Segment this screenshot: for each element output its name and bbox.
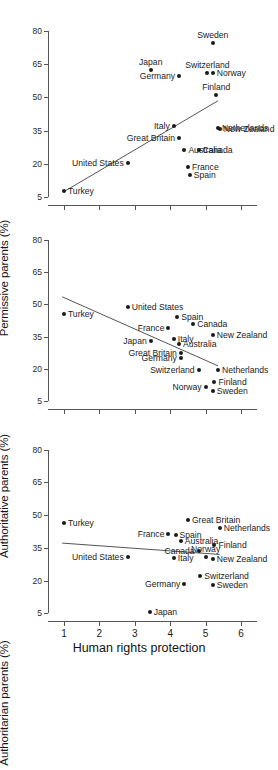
data-point: [216, 368, 220, 372]
data-point-label: Netherlands: [224, 523, 270, 532]
data-point-label: Finland: [202, 83, 230, 92]
data-point-label: New Zealand: [224, 125, 275, 134]
data-point-label: Canada: [203, 146, 233, 155]
data-point: [148, 610, 152, 614]
data-point-label: Turkey: [68, 187, 94, 196]
data-point: [211, 583, 215, 587]
data-point-label: Italy: [154, 121, 170, 130]
data-point-label: Finland: [218, 541, 246, 550]
data-point: [211, 389, 215, 393]
data-point-label: Australia: [183, 340, 216, 349]
data-point-label: Germany: [140, 72, 175, 81]
data-point: [186, 165, 190, 169]
data-point: [204, 555, 208, 559]
data-point-label: Canada: [197, 320, 227, 329]
data-point-label: Japan: [154, 608, 177, 617]
data-point-label: United States: [72, 158, 124, 167]
panel-authoritarian-parents: Authoritarian parents (%)520355065801234…: [0, 421, 278, 661]
data-point-label: Great Britain: [127, 134, 175, 143]
data-point: [211, 333, 215, 337]
data-point-label: Norway: [217, 69, 246, 78]
data-point-label: United States: [132, 302, 184, 311]
data-point: [126, 555, 130, 559]
data-point: [204, 385, 208, 389]
data-point-label: United States: [72, 553, 124, 562]
data-point-label: Sweden: [217, 580, 248, 589]
data-point-label: Switzerland: [150, 365, 194, 374]
data-point-label: Italy: [178, 554, 194, 563]
data-point-label: Turkey: [68, 310, 94, 319]
data-point: [179, 539, 183, 543]
data-point: [211, 41, 215, 45]
data-point: [172, 124, 176, 128]
data-point: [62, 521, 66, 525]
data-point: [179, 351, 183, 355]
data-point: [172, 337, 176, 341]
data-point-label: Netherlands: [222, 365, 268, 374]
panel-permissive-parents: Permissive parents (%)52035506580TurkeyU…: [0, 0, 278, 213]
panel-authoritative-parents: Authoritative parents (%)52035506580Turk…: [0, 213, 278, 421]
data-point-label: Finland: [218, 377, 246, 386]
data-point: [62, 189, 66, 193]
data-point-label: Sweden: [217, 387, 248, 396]
data-point-label: New Zealand: [217, 554, 268, 563]
data-point: [197, 368, 201, 372]
data-point-label: Turkey: [68, 518, 94, 527]
data-point: [214, 93, 218, 97]
data-point-label: Germany: [145, 579, 180, 588]
data-point-label: Japan: [123, 337, 146, 346]
x-axis-label: Human rights protection: [0, 641, 278, 655]
data-point: [62, 312, 66, 316]
data-point-label: Germany: [141, 354, 176, 363]
data-point-label: Spain: [194, 171, 216, 180]
data-point: [174, 533, 178, 537]
data-point: [211, 557, 215, 561]
data-point: [126, 305, 130, 309]
data-point-label: France: [138, 529, 165, 538]
data-point: [126, 161, 130, 165]
data-point: [186, 518, 190, 522]
data-point-label: France: [138, 324, 165, 333]
data-point-label: Japan: [139, 58, 162, 67]
data-point: [218, 526, 222, 530]
data-point-label: Canada: [164, 546, 194, 555]
data-point: [197, 148, 201, 152]
data-point-label: Norway: [172, 382, 201, 391]
data-point-label: Sweden: [197, 31, 228, 40]
data-point-label: New Zealand: [217, 330, 268, 339]
